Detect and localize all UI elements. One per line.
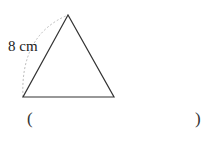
answer-blank[interactable] bbox=[40, 110, 190, 128]
side-length-label: 8 cm bbox=[8, 38, 38, 55]
answer-open-paren: ( bbox=[27, 109, 33, 129]
triangle bbox=[23, 15, 114, 97]
answer-close-paren: ) bbox=[195, 109, 201, 129]
